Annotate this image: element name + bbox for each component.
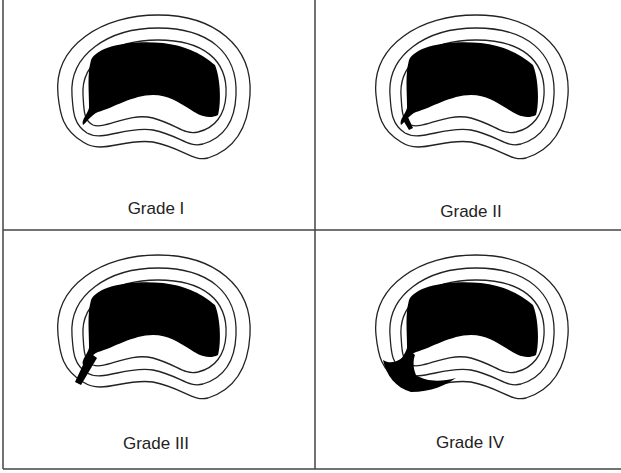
grading-figure: Grade I Grade II Grade III Grade IV: [0, 0, 621, 473]
panel-label-grade-4: Grade IV: [370, 433, 570, 453]
disc-diagram-grade-3: [58, 255, 251, 399]
disc-diagram-grade-2: [376, 15, 569, 159]
panel-label-grade-3: Grade III: [56, 434, 256, 454]
disc-diagram-grade-4: [376, 255, 569, 399]
panel-label-grade-2: Grade II: [371, 202, 571, 222]
figure-canvas: [0, 0, 621, 473]
panel-label-grade-1: Grade I: [56, 199, 256, 219]
disc-diagram-grade-1: [58, 15, 251, 159]
